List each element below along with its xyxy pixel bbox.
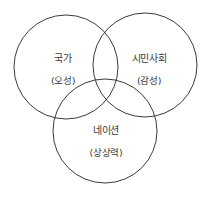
state-title: 국가 [54,50,71,65]
nation-title: 네이션 [93,122,119,137]
civil-society-subtitle: (감성) [137,73,161,87]
circle-state [14,15,118,119]
circle-civil-society [93,13,197,117]
civil-society-title: 시민사회 [132,50,167,65]
nation-subtitle: (상상력) [90,145,123,159]
state-subtitle: (오성) [51,73,75,87]
venn-diagram [0,0,212,197]
